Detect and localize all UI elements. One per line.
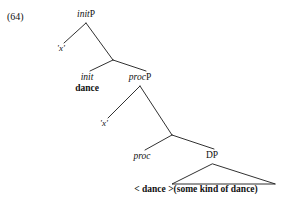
node-proc-head: proc bbox=[133, 152, 150, 162]
branch-initP-spec bbox=[64, 23, 86, 43]
node-initP-category: P bbox=[90, 9, 95, 19]
node-procP: procP bbox=[129, 73, 151, 83]
node-init-head-label: init bbox=[81, 72, 94, 82]
node-initP: initP bbox=[77, 10, 95, 20]
dp-triangle bbox=[172, 164, 275, 184]
branch-initP-bar bbox=[86, 23, 113, 60]
branch-procbar-head bbox=[145, 135, 172, 150]
syntax-tree-diagram: (64) initP 'x' init dance bbox=[0, 0, 289, 205]
branch-initbar-procP bbox=[113, 60, 146, 71]
node-specifier-proc: 'x' bbox=[100, 119, 108, 128]
branch-initbar-head bbox=[90, 60, 113, 71]
node-DP: DP bbox=[206, 151, 218, 161]
node-proc-head-label: proc bbox=[133, 151, 150, 161]
node-DP-label: DP bbox=[206, 150, 218, 160]
node-initP-head: init bbox=[77, 9, 90, 19]
node-dp-complement: < dance >(some kind of dance) bbox=[134, 185, 258, 195]
node-procP-category: P bbox=[146, 72, 151, 82]
node-specifier-init: 'x' bbox=[57, 44, 65, 53]
branch-procP-spec bbox=[108, 86, 140, 118]
node-init-word: dance bbox=[75, 84, 99, 94]
tree-branch-lines bbox=[0, 0, 289, 205]
branch-procbar-DP bbox=[172, 135, 214, 149]
node-init-head: init bbox=[81, 73, 94, 83]
node-procP-head: proc bbox=[129, 72, 146, 82]
branch-procP-bar bbox=[140, 86, 172, 135]
